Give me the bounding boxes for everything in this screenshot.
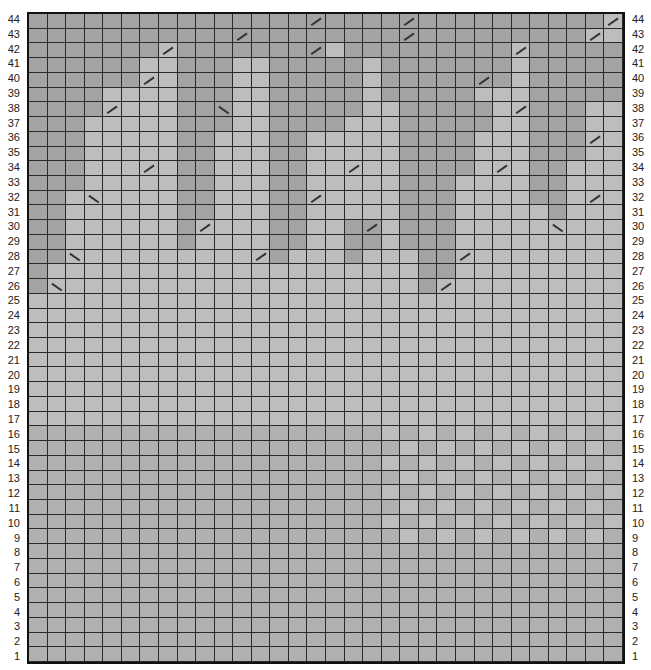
chart-cell <box>586 603 605 618</box>
chart-cell <box>159 367 178 382</box>
chart-cell <box>437 88 456 103</box>
chart-cell <box>419 426 438 441</box>
chart-cell <box>456 29 475 44</box>
chart-cell <box>382 456 401 471</box>
knitting-chart-grid <box>27 12 625 664</box>
chart-cell <box>270 88 289 103</box>
chart-cell <box>363 176 382 191</box>
chart-cell <box>85 588 104 603</box>
chart-cell <box>103 323 122 338</box>
chart-cell <box>140 147 159 162</box>
chart-cell <box>512 529 531 544</box>
chart-cell <box>493 58 512 73</box>
chart-cell <box>586 515 605 530</box>
chart-cell <box>307 559 326 574</box>
chart-cell <box>549 515 568 530</box>
chart-cell <box>48 264 67 279</box>
chart-cell <box>604 205 623 220</box>
chart-cell <box>48 559 67 574</box>
chart-cell <box>419 176 438 191</box>
chart-cell <box>549 205 568 220</box>
chart-cell <box>252 485 271 500</box>
chart-cell <box>363 500 382 515</box>
chart-cell <box>400 559 419 574</box>
chart-cell <box>48 176 67 191</box>
chart-cell <box>233 426 252 441</box>
chart-cell <box>345 191 364 206</box>
chart-cell <box>382 588 401 603</box>
chart-cell <box>512 220 531 235</box>
chart-cell <box>233 264 252 279</box>
chart-cell <box>66 29 85 44</box>
chart-cell <box>567 161 586 176</box>
chart-cell <box>475 588 494 603</box>
chart-cell <box>29 471 48 486</box>
chart-cell <box>215 309 234 324</box>
chart-cell <box>307 633 326 648</box>
chart-cell <box>252 220 271 235</box>
chart-cell <box>270 426 289 441</box>
chart-cell <box>326 471 345 486</box>
chart-cell <box>456 264 475 279</box>
chart-cell <box>159 250 178 265</box>
chart-cell <box>103 544 122 559</box>
chart-cell <box>400 147 419 162</box>
chart-cell <box>196 633 215 648</box>
row-label: 32 <box>0 190 24 205</box>
chart-cell <box>456 633 475 648</box>
chart-cell <box>196 603 215 618</box>
chart-cell <box>530 250 549 265</box>
chart-cell <box>196 515 215 530</box>
chart-cell <box>307 309 326 324</box>
chart-cell <box>456 132 475 147</box>
chart-cell <box>122 382 141 397</box>
chart-cell <box>567 235 586 250</box>
chart-cell <box>475 191 494 206</box>
chart-cell <box>122 618 141 633</box>
chart-cell <box>66 500 85 515</box>
chart-cell <box>475 500 494 515</box>
chart-cell <box>400 353 419 368</box>
chart-cell <box>48 353 67 368</box>
chart-cell <box>567 43 586 58</box>
chart-cell <box>178 29 197 44</box>
chart-cell <box>419 73 438 88</box>
chart-cell <box>66 161 85 176</box>
chart-cell <box>215 456 234 471</box>
row-label: 29 <box>630 234 651 249</box>
chart-cell <box>363 58 382 73</box>
chart-cell <box>307 220 326 235</box>
chart-cell <box>289 618 308 633</box>
chart-cell <box>586 647 605 662</box>
chart-cell <box>363 220 382 235</box>
chart-cell <box>196 471 215 486</box>
chart-cell <box>252 235 271 250</box>
chart-cell <box>475 132 494 147</box>
chart-cell <box>140 29 159 44</box>
chart-cell <box>437 235 456 250</box>
chart-cell <box>345 102 364 117</box>
chart-cell <box>567 500 586 515</box>
row-label: 44 <box>0 12 24 27</box>
chart-cell <box>345 279 364 294</box>
decrease-slash-icon <box>404 18 414 26</box>
chart-cell <box>326 382 345 397</box>
chart-cell <box>549 102 568 117</box>
chart-cell <box>178 250 197 265</box>
chart-cell <box>604 161 623 176</box>
chart-cell <box>363 603 382 618</box>
row-label: 6 <box>0 575 24 590</box>
chart-cell <box>586 279 605 294</box>
chart-cell <box>437 294 456 309</box>
chart-cell <box>419 529 438 544</box>
chart-cell <box>29 58 48 73</box>
chart-cell <box>215 205 234 220</box>
chart-cell <box>140 618 159 633</box>
chart-cell <box>604 412 623 427</box>
chart-cell <box>233 73 252 88</box>
chart-cell <box>159 147 178 162</box>
chart-cell <box>604 323 623 338</box>
chart-cell <box>29 309 48 324</box>
chart-cell <box>400 279 419 294</box>
chart-cell <box>604 382 623 397</box>
